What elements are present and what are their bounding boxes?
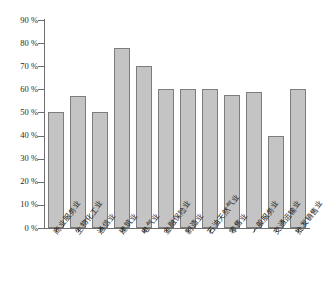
y-tick-label: 10 % [0,200,38,209]
y-tick-label: 80 % [0,39,38,48]
y-tick [38,112,44,113]
bar [114,48,129,228]
y-tick-label: 60 % [0,85,38,94]
bar [136,66,151,228]
y-tick-label: 20 % [0,177,38,186]
y-tick-label: 0 % [0,224,38,233]
y-tick [38,205,44,206]
y-tick-label: 40 % [0,131,38,140]
y-tick [38,89,44,90]
y-tick-label: 30 % [0,154,38,163]
y-tick-label: 90 % [0,16,38,25]
y-tick [38,20,44,21]
bar [202,89,217,228]
y-tick [38,136,44,137]
bar [48,112,63,228]
bar [158,89,173,228]
y-tick [38,159,44,160]
y-tick [38,228,44,229]
figure-caption [0,280,320,289]
y-tick-label: 50 % [0,108,38,117]
y-tick-label: 70 % [0,62,38,71]
y-tick [38,182,44,183]
y-tick [38,43,44,44]
y-tick [38,66,44,67]
bar-series [45,20,309,228]
bar [246,92,261,228]
